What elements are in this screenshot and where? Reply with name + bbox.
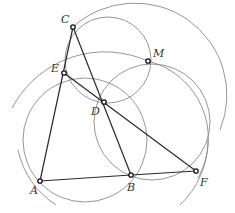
geometry-diagram: ABCDEFM xyxy=(0,0,235,213)
label-B: B xyxy=(126,181,135,194)
point-M xyxy=(146,59,150,63)
arc-right-mid xyxy=(148,61,208,178)
point-B xyxy=(129,173,133,177)
point-F xyxy=(194,169,198,173)
segment-BF xyxy=(131,171,196,175)
point-D xyxy=(102,100,106,104)
point-A xyxy=(38,179,42,183)
segment-EF xyxy=(64,73,196,171)
label-A: A xyxy=(29,184,38,197)
segment-AC xyxy=(40,27,73,181)
circle-BDMF xyxy=(94,64,210,180)
label-E: E xyxy=(50,62,59,75)
label-M: M xyxy=(152,47,165,60)
construction-circles xyxy=(12,3,227,205)
point-E xyxy=(62,71,66,75)
label-D: D xyxy=(90,105,100,118)
arc-left-large xyxy=(12,52,150,108)
triangle-segments xyxy=(40,27,196,181)
label-C: C xyxy=(61,13,70,26)
point-C xyxy=(71,25,75,29)
label-F: F xyxy=(199,176,208,189)
circle-CEDM xyxy=(65,17,151,103)
segment-AB xyxy=(40,175,131,181)
